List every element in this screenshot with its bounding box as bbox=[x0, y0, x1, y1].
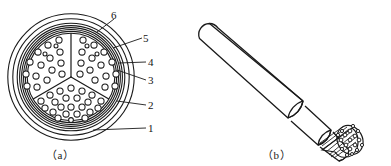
step-ring-1 bbox=[288, 101, 303, 118]
panel-caption-b: （b） bbox=[262, 146, 291, 162]
callout-label-2: 2 bbox=[148, 99, 154, 111]
step-ring-1-face bbox=[288, 101, 303, 118]
panel-caption-a: （a） bbox=[46, 146, 74, 162]
callout-label-4: 4 bbox=[148, 56, 154, 68]
callout-label-3: 3 bbox=[148, 74, 154, 86]
callout-label-6: 6 bbox=[111, 9, 117, 21]
callout-label-5: 5 bbox=[143, 32, 149, 44]
callout-label-1: 1 bbox=[148, 122, 154, 134]
cable-outer-jacket-body bbox=[199, 24, 303, 119]
figure-canvas: 6 5 4 3 2 1 （a） （b） bbox=[0, 0, 391, 166]
cable-perspective-figure bbox=[0, 0, 391, 166]
